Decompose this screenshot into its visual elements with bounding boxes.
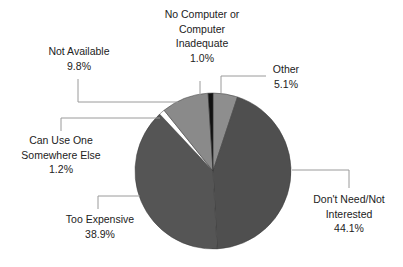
- label-other: Other 5.1%: [266, 62, 306, 91]
- leader-line-can-use: [61, 118, 160, 131]
- leader-line-not-available: [78, 79, 178, 102]
- leader-line-other: [221, 76, 266, 93]
- label-dont-need: Don't Need/Not Interested 44.1%: [306, 192, 392, 236]
- pie-slices: [135, 93, 291, 249]
- label-not-available: Not Available 9.8%: [44, 44, 114, 73]
- leader-line-dont-need: [292, 170, 349, 188]
- label-no-computer: No Computer or Computer Inadequate 1.0%: [152, 7, 252, 65]
- leader-line-too-expensive: [98, 196, 140, 209]
- label-can-use: Can Use One Somewhere Else 1.2%: [18, 133, 104, 177]
- label-too-expensive: Too Expensive 38.9%: [60, 212, 140, 241]
